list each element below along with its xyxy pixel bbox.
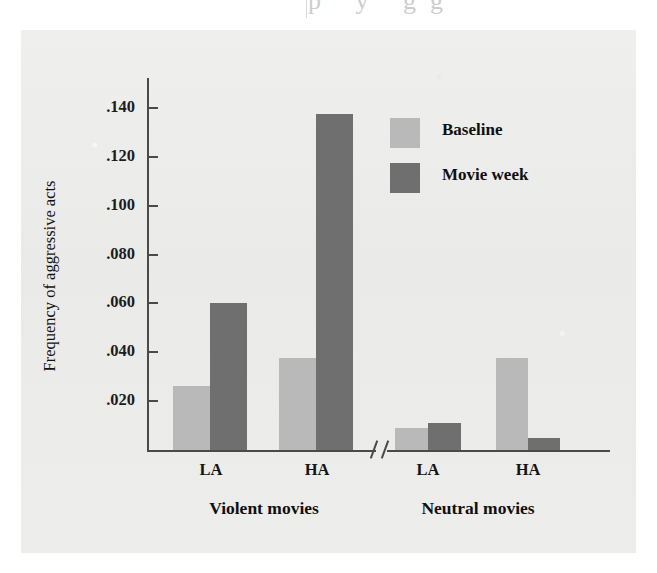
legend-label: Movie week bbox=[442, 165, 528, 185]
y-tick-120 bbox=[149, 156, 158, 158]
legend-label: Baseline bbox=[442, 120, 502, 140]
y-tick-080 bbox=[149, 254, 158, 256]
bar-violent-ha-movie bbox=[316, 114, 353, 450]
x-group-label-violent: Violent movies bbox=[149, 498, 379, 519]
x-group-label-neutral: Neutral movies bbox=[363, 498, 593, 519]
x-tick-label-ha-violent: HA bbox=[282, 460, 352, 480]
y-tick-label: .140 bbox=[65, 97, 135, 117]
bar-neutral-la-movie bbox=[428, 423, 461, 450]
y-tick-label: .060 bbox=[65, 292, 135, 312]
legend-swatch-movie bbox=[390, 163, 420, 193]
y-tick-label: .080 bbox=[65, 244, 135, 264]
y-tick-label: .020 bbox=[65, 390, 135, 410]
x-tick-label-la-neutral: LA bbox=[393, 460, 463, 480]
legend-swatch-baseline bbox=[390, 118, 420, 148]
y-tick-060 bbox=[149, 302, 158, 304]
y-tick-label: .100 bbox=[65, 195, 135, 215]
x-axis-line-right bbox=[387, 450, 610, 452]
bar-neutral-ha-movie bbox=[528, 438, 560, 450]
bleed-text: p y gg bbox=[308, 0, 457, 16]
bar-violent-la-baseline bbox=[173, 386, 210, 450]
x-axis-line-left bbox=[147, 450, 376, 452]
y-tick-140 bbox=[149, 107, 158, 109]
bar-violent-ha-baseline bbox=[279, 358, 316, 450]
bleed-rule bbox=[306, 0, 307, 18]
y-tick-100 bbox=[149, 205, 158, 207]
page-top-bleed: p y gg bbox=[0, 0, 657, 18]
y-axis-line bbox=[147, 78, 149, 450]
bar-violent-la-movie bbox=[210, 303, 247, 450]
y-tick-label: .120 bbox=[65, 146, 135, 166]
y-tick-label: .040 bbox=[65, 341, 135, 361]
bar-neutral-ha-baseline bbox=[496, 358, 528, 450]
x-tick-label-la-violent: LA bbox=[176, 460, 246, 480]
y-tick-040 bbox=[149, 351, 158, 353]
y-axis-title: Frequency of aggressive acts bbox=[40, 146, 60, 406]
x-tick-label-ha-neutral: HA bbox=[493, 460, 563, 480]
bar-neutral-la-baseline bbox=[395, 428, 428, 450]
y-tick-020 bbox=[149, 400, 158, 402]
figure-panel: Frequency of aggressive acts .020.040.06… bbox=[21, 30, 636, 553]
